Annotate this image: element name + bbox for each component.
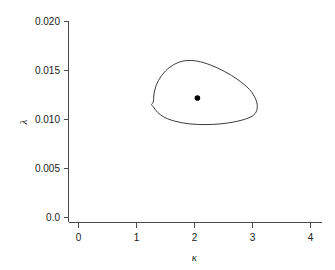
y-axis-title: λ	[17, 119, 29, 125]
plot-background	[0, 0, 335, 270]
chart-page: 0.020 0.015 0.010 0.005 0.0 0 1 2 3 4 λ …	[0, 0, 335, 270]
y-tick-label-0: 0.020	[35, 16, 60, 27]
x-axis-title: κ	[192, 251, 198, 263]
point-estimate-marker	[195, 95, 201, 101]
confidence-region-plot: 0.020 0.015 0.010 0.005 0.0 0 1 2 3 4 λ …	[0, 0, 335, 270]
y-tick-label-1: 0.015	[35, 65, 60, 76]
y-tick-label-4: 0.0	[46, 212, 60, 223]
x-tick-label-1: 1	[134, 232, 140, 243]
y-tick-label-3: 0.005	[35, 163, 60, 174]
x-tick-label-0: 0	[76, 232, 82, 243]
x-tick-label-2: 2	[192, 232, 198, 243]
x-tick-label-3: 3	[250, 232, 256, 243]
x-tick-label-4: 4	[308, 232, 314, 243]
y-tick-label-2: 0.010	[35, 114, 60, 125]
